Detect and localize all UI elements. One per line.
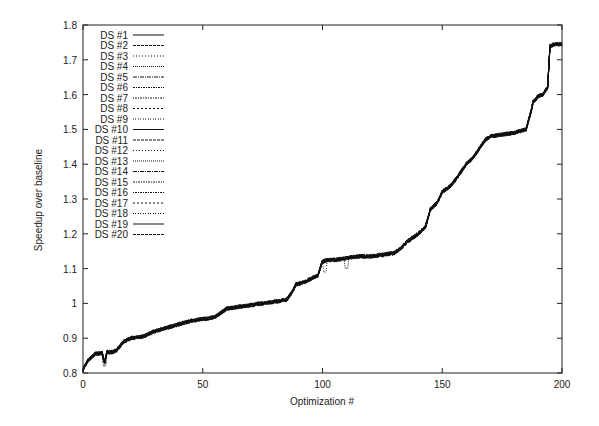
x-tick-label: 100 [314, 379, 331, 390]
y-tick-label: 1.4 [63, 159, 77, 170]
series-line [83, 42, 562, 369]
legend-label: DS #2 [100, 40, 128, 51]
legend-label: DS #7 [100, 93, 128, 104]
y-tick-label: 1 [71, 298, 77, 309]
series-line [83, 42, 562, 371]
series-line [83, 43, 562, 371]
series-line [83, 42, 562, 371]
series-line [83, 42, 562, 369]
x-axis-label: Optimization # [290, 396, 354, 407]
legend-label: DS #1 [100, 30, 128, 41]
y-axis-label: Speedup over baseline [33, 148, 44, 251]
series-line [83, 42, 562, 370]
x-tick-label: 50 [197, 379, 209, 390]
series-line [83, 42, 562, 371]
series-line [83, 43, 562, 371]
x-tick-label: 0 [80, 379, 86, 390]
series-line [83, 43, 562, 368]
legend-label: DS #9 [100, 114, 128, 125]
y-tick-label: 1.3 [63, 194, 77, 205]
series-line [83, 44, 562, 371]
series-line [83, 43, 562, 369]
series-line [83, 43, 562, 369]
legend-label: DS #12 [95, 145, 129, 156]
legend-label: DS #13 [95, 156, 129, 167]
y-tick-label: 1.2 [63, 229, 77, 240]
legend-label: DS #8 [100, 103, 128, 114]
series-line [83, 42, 562, 369]
series-line [83, 43, 562, 371]
legend-label: DS #6 [100, 82, 128, 93]
legend-label: DS #4 [100, 61, 128, 72]
legend: DS #1DS #2DS #3DS #4DS #5DS #6DS #7DS #8… [95, 30, 164, 241]
series-line [83, 44, 562, 370]
series-line [83, 44, 562, 370]
y-tick-label: 0.8 [63, 368, 77, 379]
data-series-lines [83, 42, 562, 372]
legend-label: DS #17 [95, 198, 129, 209]
y-tick-label: 1.8 [63, 20, 77, 31]
legend-label: DS #15 [95, 177, 129, 188]
legend-label: DS #14 [95, 166, 129, 177]
y-tick-label: 0.9 [63, 333, 77, 344]
legend-label: DS #11 [95, 135, 128, 146]
series-line [83, 43, 562, 372]
speedup-chart: 0.80.911.11.21.31.41.51.61.71.8 05010015… [0, 0, 599, 426]
series-line [83, 43, 562, 372]
legend-label: DS #3 [100, 51, 128, 62]
y-tick-label: 1.7 [63, 55, 77, 66]
legend-label: DS #10 [95, 124, 129, 135]
legend-label: DS #19 [95, 219, 129, 230]
series-line [83, 43, 562, 369]
legend-label: DS #18 [95, 208, 129, 219]
legend-label: DS #20 [95, 229, 129, 240]
y-axis-ticks: 0.80.911.11.21.31.41.51.61.71.8 [63, 20, 562, 379]
x-tick-label: 200 [554, 379, 571, 390]
y-tick-label: 1.1 [63, 264, 77, 275]
y-tick-label: 1.6 [63, 90, 77, 101]
x-axis-ticks: 050100150200 [80, 25, 571, 390]
y-tick-label: 1.5 [63, 124, 77, 135]
legend-label: DS #5 [100, 72, 128, 83]
x-tick-label: 150 [434, 379, 451, 390]
series-line [83, 42, 562, 370]
legend-label: DS #16 [95, 187, 129, 198]
